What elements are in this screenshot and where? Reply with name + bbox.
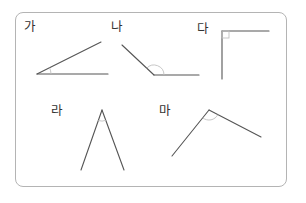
angle-ma	[172, 110, 261, 156]
angles-diagram	[0, 0, 306, 203]
angle-ga	[37, 42, 108, 74]
angle-da	[222, 31, 269, 79]
angle-ra	[81, 110, 124, 170]
angle-na	[122, 45, 199, 75]
